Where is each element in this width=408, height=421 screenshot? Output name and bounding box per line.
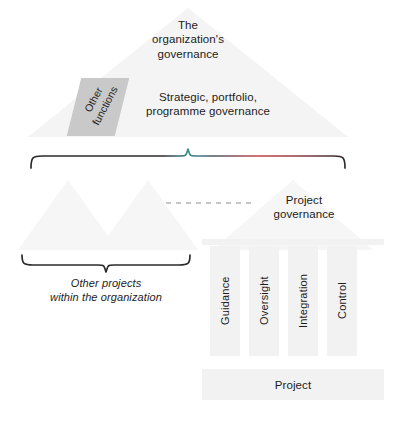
other-projects-label: Other projects within the organization [20, 276, 192, 305]
organization-governance-label: The organization's governance [126, 18, 250, 61]
pillar-label-integration: Integration [288, 246, 318, 356]
strategic-portfolio-programme-label: Strategic, portfolio, programme governan… [118, 90, 298, 119]
other-project-triangle-1 [18, 180, 118, 250]
lower-brace [22, 255, 190, 272]
project-governance-label: Project governance [256, 193, 352, 222]
governance-diagram: The organization's governance Strategic,… [0, 0, 408, 421]
pillar-label-control: Control [327, 246, 357, 356]
other-project-triangle-2 [98, 180, 198, 250]
upper-brace [31, 149, 345, 168]
pillar-label-oversight: Oversight [249, 246, 279, 356]
pillar-label-guidance: Guidance [210, 246, 240, 356]
entablature-bar [202, 239, 384, 245]
project-base-label: Project [202, 378, 384, 392]
